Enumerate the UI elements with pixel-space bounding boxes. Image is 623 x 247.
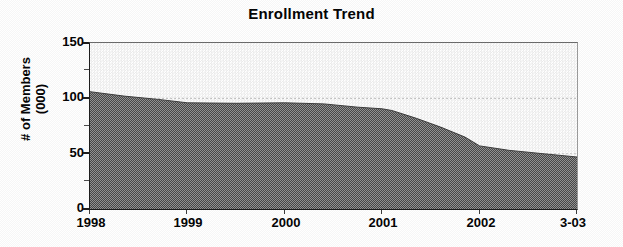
- area-series-members: [90, 92, 577, 209]
- y-tick-label-150: 150: [48, 35, 84, 49]
- y-tick-label-100: 100: [48, 90, 84, 104]
- x-axis-tick-labels: 1998 1999 2000 2001 2002 3-03: [0, 215, 623, 241]
- area-series-svg: [90, 43, 577, 209]
- x-tick-label-2002: 2002: [467, 215, 496, 231]
- y-tick-label-50: 50: [48, 146, 84, 160]
- enrollment-trend-chart: Enrollment Trend # of Members (000) 150 …: [0, 0, 623, 247]
- x-tick-label-1999: 1999: [174, 215, 203, 231]
- x-tick-label-2000: 2000: [272, 215, 301, 231]
- x-tick-label-3-03: 3-03: [560, 215, 586, 231]
- x-tick-label-1998: 1998: [77, 215, 106, 231]
- x-tick-label-2001: 2001: [369, 215, 398, 231]
- plot-area: [89, 42, 578, 210]
- y-axis-title-line-1: # of Members: [18, 14, 33, 184]
- chart-title: Enrollment Trend: [0, 5, 623, 23]
- y-tick-label-0: 0: [48, 201, 84, 215]
- y-axis-tick-labels: 150 100 50 0: [44, 0, 84, 247]
